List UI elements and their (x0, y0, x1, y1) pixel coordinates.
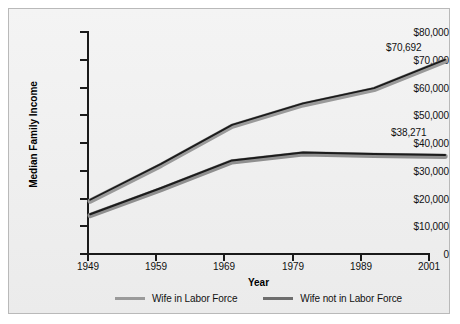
data-label-wife-in-labor-force: $70,692 (386, 42, 421, 53)
legend-item-wife-in-labor-force: Wife in Labor Force (115, 293, 237, 304)
legend-swatch-icon-wife-not-in-labor-force (263, 297, 293, 300)
series-plot (9, 9, 460, 324)
legend-label-wife-in-labor-force: Wife in Labor Force (152, 293, 237, 304)
chart-figure: $80,000 $70,000 $60,000 $50,000 $40,000 … (0, 0, 460, 324)
legend-label-wife-not-in-labor-force: Wife not in Labor Force (300, 293, 402, 304)
data-label-wife-not-in-labor-force: $38,271 (391, 127, 426, 138)
chart-legend: Wife in Labor Force Wife not in Labor Fo… (87, 293, 430, 304)
series-wife-not-in-labor-force-shadow (90, 154, 445, 216)
chart-frame: $80,000 $70,000 $60,000 $50,000 $40,000 … (8, 8, 450, 314)
legend-item-wife-not-in-labor-force: Wife not in Labor Force (263, 293, 402, 304)
series-wife-not-in-labor-force-line (90, 152, 445, 214)
legend-swatch-icon-wife-in-labor-force (115, 297, 145, 300)
